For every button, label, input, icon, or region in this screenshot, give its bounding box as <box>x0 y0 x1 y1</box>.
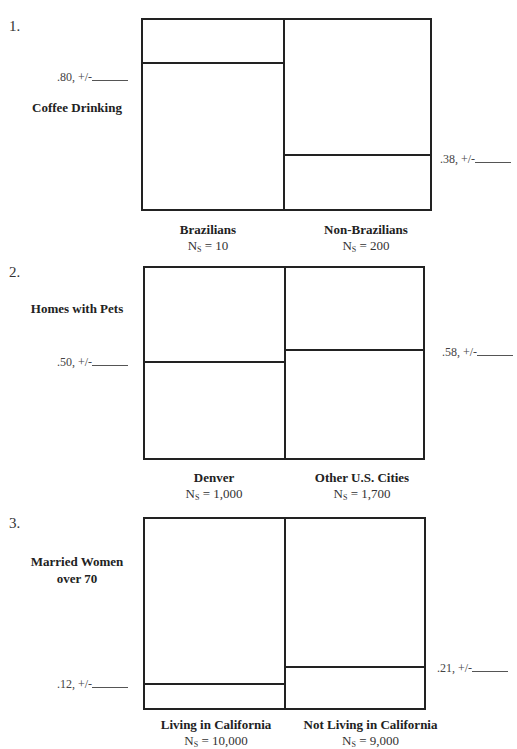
left-proportion-label: .50, +/- <box>57 355 128 370</box>
answer-blank[interactable] <box>477 346 513 356</box>
question-number: 3. <box>9 515 20 532</box>
category-left: Living in California NS = 10,000 <box>136 717 296 749</box>
category-right: Other U.S. Cities NS = 1,700 <box>282 470 442 506</box>
left-proportion-label: .12, +/- <box>57 677 128 692</box>
sample-size: NS = 10 <box>128 238 288 258</box>
mosaic-box <box>143 266 425 460</box>
answer-blank[interactable] <box>475 153 511 163</box>
mosaic-box <box>141 18 432 211</box>
sample-size: NS = 10,000 <box>136 733 296 749</box>
category-right: Not Living in California NS = 9,000 <box>283 717 458 749</box>
answer-blank[interactable] <box>92 678 128 688</box>
sample-size: NS = 1,000 <box>134 486 294 506</box>
y-axis-label: Homes with Pets <box>22 300 132 317</box>
right-proportion-label: .21, +/- <box>437 661 508 676</box>
category-divider <box>283 20 285 209</box>
right-proportion-line <box>284 154 430 156</box>
left-proportion-label: .80, +/- <box>57 70 128 85</box>
right-proportion-line <box>285 349 423 351</box>
question-number: 1. <box>9 18 20 35</box>
answer-blank[interactable] <box>92 71 128 81</box>
category-right: Non-Brazilians NS = 200 <box>286 222 446 258</box>
question-number: 2. <box>9 264 20 281</box>
category-divider <box>284 519 286 708</box>
left-proportion-line <box>145 361 285 363</box>
category-divider <box>284 268 286 458</box>
right-proportion-line <box>285 666 424 668</box>
left-proportion-line <box>145 683 285 685</box>
sample-size: NS = 9,000 <box>283 733 458 749</box>
left-proportion-line <box>143 62 284 64</box>
y-axis-label: Coffee Drinking <box>22 99 132 116</box>
category-left: Denver NS = 1,000 <box>134 470 294 506</box>
sample-size: NS = 200 <box>286 238 446 258</box>
right-proportion-label: .38, +/- <box>440 152 511 167</box>
sample-size: NS = 1,700 <box>282 486 442 506</box>
answer-blank[interactable] <box>472 662 508 672</box>
mosaic-box <box>143 517 426 710</box>
answer-blank[interactable] <box>92 356 128 366</box>
category-left: Brazilians NS = 10 <box>128 222 288 258</box>
right-proportion-label: .58, +/- <box>442 345 513 360</box>
y-axis-label: Married Women over 70 <box>22 553 132 587</box>
